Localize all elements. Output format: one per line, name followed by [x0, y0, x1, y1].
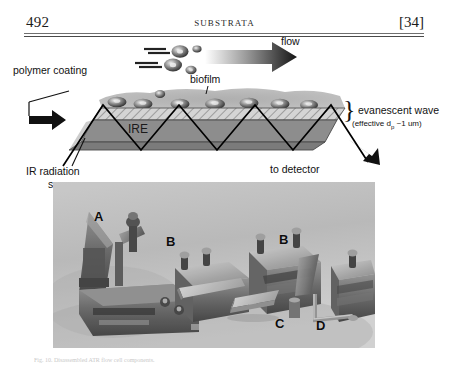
ire-label: IRE: [128, 123, 148, 136]
flow-label: flow: [281, 36, 300, 48]
evanescent-depth-main: (effective d: [352, 119, 391, 128]
header-rule-top: [24, 33, 424, 34]
to-detector-label: to detector: [270, 164, 320, 176]
chapter-number: [34]: [399, 14, 424, 31]
figure-caption: Fig. 10. Disassembled ATR flow cell comp…: [34, 357, 364, 365]
ir-source-label-line1: IR radiation: [26, 166, 80, 178]
header-rule-bottom: [24, 36, 424, 37]
page-header: 492 SUBSTRATA [34]: [0, 14, 449, 32]
journal-page: 492 SUBSTRATA [34]: [0, 0, 449, 370]
biofilm-label: biofilm: [190, 74, 220, 86]
flow-cell-photograph: A B B C D: [53, 182, 375, 348]
polymer-coating-leader2: [29, 91, 69, 102]
photo-label-b1: B: [166, 234, 175, 249]
flowing-cells-group: [135, 45, 202, 74]
evanescent-wave-label: evanescent wave: [358, 105, 439, 117]
evanescent-depth-tail: ~1 um): [394, 119, 421, 128]
photo-label-b2: B: [279, 232, 288, 247]
biofilm-layer: [99, 88, 345, 110]
polymer-coating-label: polymer coating: [13, 65, 87, 77]
polymer-coating-layer: [93, 108, 345, 120]
atr-schematic-figure: polymer coating biofilm flow IRE IR radi…: [0, 38, 449, 178]
ir-source-arrow-icon: [29, 110, 66, 130]
photo-label-a: A: [94, 209, 103, 224]
evanescent-depth-note: (effective dp ~1 um): [352, 120, 422, 130]
photo-label-c: C: [275, 316, 284, 331]
running-head-title: SUBSTRATA: [0, 18, 449, 28]
photo-svg: [53, 182, 375, 348]
detector-arrow-icon: [349, 140, 380, 165]
photo-label-d: D: [316, 318, 325, 333]
